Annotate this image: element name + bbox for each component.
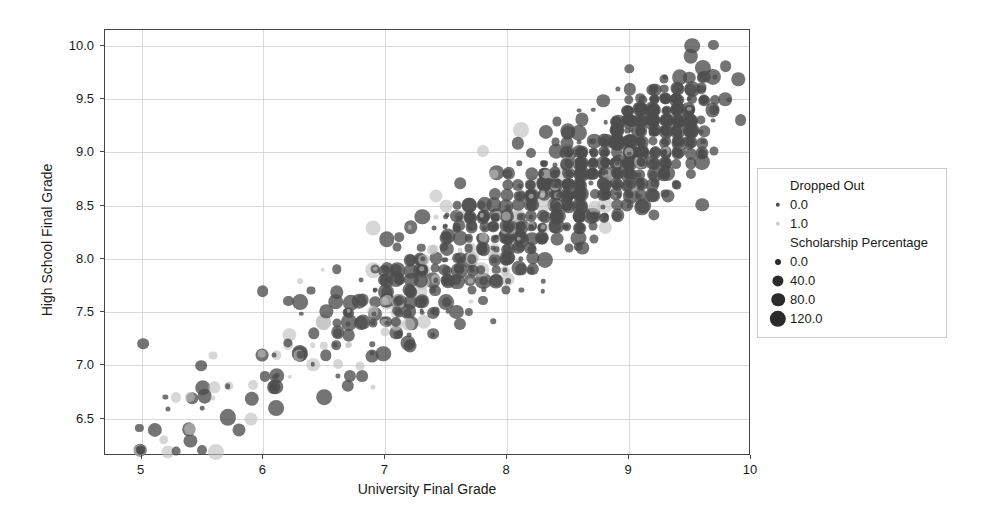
scatter-point (697, 83, 706, 92)
scatter-point (503, 242, 515, 254)
scatter-point (661, 189, 670, 198)
scatter-point (626, 116, 637, 127)
scatter-point (634, 102, 647, 115)
scatter-point (649, 84, 662, 97)
scatter-point (610, 157, 622, 169)
scatter-point (603, 214, 608, 219)
scatter-point (467, 236, 472, 241)
scatter-point (454, 177, 466, 189)
scatter-point (590, 170, 595, 175)
scatter-point (600, 213, 608, 221)
scatter-point (516, 263, 527, 274)
scatter-point (550, 179, 558, 187)
scatter-point (609, 133, 625, 149)
scatter-point (597, 168, 608, 179)
scatter-point (609, 157, 621, 169)
scatter-point (491, 319, 496, 324)
scatter-point (515, 224, 524, 233)
scatter-point (624, 135, 637, 148)
scatter-point (272, 351, 282, 361)
scatter-point (664, 118, 669, 123)
scatter-point (538, 224, 546, 232)
scatter-point (564, 224, 569, 229)
scatter-point (392, 294, 406, 308)
scatter-point (391, 317, 401, 327)
scatter-point (537, 176, 553, 192)
scatter-point (588, 139, 593, 144)
scatter-point (660, 114, 670, 124)
scatter-point (548, 220, 561, 233)
scatter-point (427, 328, 439, 340)
scatter-point (571, 124, 587, 140)
scatter-point (477, 210, 490, 223)
scatter-point (650, 128, 659, 137)
scatter-point (633, 178, 646, 191)
scatter-point (511, 208, 525, 222)
scatter-point (548, 167, 560, 179)
scatter-point (566, 192, 575, 201)
scatter-point (636, 138, 645, 147)
scatter-point (671, 159, 681, 169)
scatter-point (551, 138, 560, 147)
scatter-point (465, 220, 478, 233)
scatter-point (500, 213, 509, 222)
legend-hue-item-row[interactable]: 0.0 (766, 195, 936, 214)
scatter-point (578, 213, 583, 218)
scatter-point (614, 170, 623, 179)
legend-size-item-row[interactable]: 80.0 (766, 290, 936, 309)
scatter-point (673, 180, 682, 189)
scatter-point (621, 180, 633, 192)
gridline-horizontal (105, 419, 749, 420)
scatter-point (586, 208, 600, 222)
scatter-plot-figure: 5678910 6.57.07.58.08.59.09.510.0 Univer… (0, 0, 981, 517)
scatter-point (516, 222, 524, 230)
scatter-point (611, 167, 621, 177)
scatter-point (696, 72, 706, 82)
scatter-point (551, 198, 563, 210)
scatter-point (137, 338, 149, 350)
scatter-point (637, 138, 645, 146)
scatter-point (561, 158, 574, 171)
scatter-point (208, 444, 224, 460)
scatter-point (405, 316, 418, 329)
scatter-point (660, 94, 669, 103)
scatter-point (573, 211, 585, 223)
scatter-point (404, 273, 418, 287)
scatter-point (698, 71, 710, 83)
legend-size-item-label: 0.0 (790, 254, 808, 269)
scatter-point (564, 170, 573, 179)
legend-size-item-row[interactable]: 0.0 (766, 252, 936, 271)
legend-hue-item-row[interactable]: 1.0 (766, 214, 936, 233)
scatter-point (442, 231, 451, 240)
scatter-point (455, 212, 464, 221)
scatter-point (587, 169, 595, 177)
scatter-point (588, 180, 593, 185)
legend-hue-items: 0.01.0 (766, 195, 936, 233)
legend-size-item-row[interactable]: 120.0 (766, 309, 936, 328)
scatter-point (297, 278, 303, 284)
scatter-point (682, 114, 695, 127)
scatter-point (709, 147, 718, 156)
scatter-point (442, 225, 447, 230)
scatter-point (514, 233, 524, 243)
scatter-point (536, 177, 549, 190)
scatter-point (415, 294, 429, 308)
scatter-point (492, 224, 496, 228)
scatter-point (661, 113, 674, 126)
scatter-point (698, 149, 708, 159)
scatter-point (450, 210, 462, 222)
scatter-point (652, 128, 657, 133)
scatter-point (636, 126, 646, 136)
scatter-point (663, 106, 672, 115)
scatter-point (663, 74, 668, 79)
scatter-point (490, 170, 499, 179)
scatter-point (403, 264, 418, 279)
scatter-point (540, 223, 549, 232)
x-axis-tick-mark (506, 455, 507, 459)
scatter-point (576, 180, 585, 189)
scatter-point (671, 93, 681, 103)
scatter-point (650, 107, 659, 116)
scatter-point (417, 264, 427, 274)
legend-size-item-row[interactable]: 40.0 (766, 271, 936, 290)
scatter-point (610, 177, 622, 189)
